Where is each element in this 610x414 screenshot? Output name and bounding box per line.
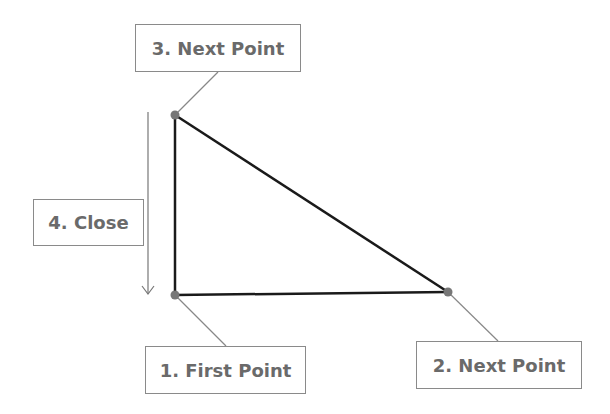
vertex-3[interactable] (171, 111, 180, 120)
label-first-point: 1. First Point (145, 346, 306, 394)
label-next-point-3: 3. Next Point (135, 24, 301, 72)
leader-line-3 (175, 72, 218, 115)
triangle-edges (175, 115, 448, 295)
label-next-point-2: 2. Next Point (416, 341, 582, 389)
leader-line-2 (448, 292, 498, 341)
polygon-diagram: 3. Next Point 4. Close 1. First Point 2.… (0, 0, 610, 414)
leader-line-1 (175, 295, 226, 346)
vertex-1[interactable] (171, 291, 180, 300)
label-close: 4. Close (33, 199, 144, 246)
vertex-2[interactable] (444, 288, 453, 297)
